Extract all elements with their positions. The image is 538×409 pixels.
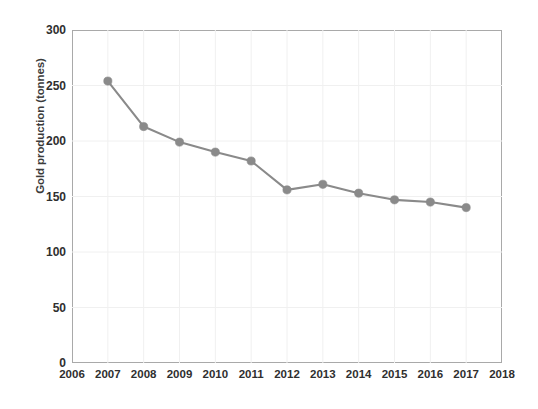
x-tick-label: 2014 xyxy=(346,368,372,380)
x-tick-label: 2006 xyxy=(59,368,85,380)
x-axis-tick-labels: 2006200720082009201020112012201320142015… xyxy=(0,368,538,394)
gridlines xyxy=(72,30,502,363)
x-tick-label: 2008 xyxy=(131,368,157,380)
data-point xyxy=(104,77,112,85)
y-axis-tick-labels: 050100150200250300 xyxy=(0,0,66,409)
data-point xyxy=(247,157,255,165)
data-point xyxy=(140,122,148,130)
data-point xyxy=(175,138,183,146)
data-point xyxy=(462,204,470,212)
x-tick-label: 2015 xyxy=(382,368,408,380)
x-tick-label: 2011 xyxy=(239,368,264,380)
y-tick-label: 200 xyxy=(4,134,66,148)
y-tick-label: 100 xyxy=(4,245,66,259)
x-tick-label: 2016 xyxy=(418,368,444,380)
gold-production-line-chart: Gold production (tonnes) 050100150200250… xyxy=(0,0,538,409)
plot-canvas xyxy=(72,30,502,363)
data-point xyxy=(355,189,363,197)
y-tick-label: 300 xyxy=(4,23,66,37)
x-tick-label: 2012 xyxy=(274,368,300,380)
x-tick-label: 2007 xyxy=(95,368,121,380)
data-point xyxy=(426,198,434,206)
y-tick-label: 250 xyxy=(4,79,66,93)
y-tick-label: 50 xyxy=(4,301,66,315)
x-tick-label: 2018 xyxy=(489,368,515,380)
data-point xyxy=(283,186,291,194)
y-tick-label: 150 xyxy=(4,190,66,204)
x-tick-label: 2010 xyxy=(203,368,229,380)
x-tick-label: 2009 xyxy=(167,368,193,380)
x-tick-label: 2013 xyxy=(310,368,336,380)
x-tick-label: 2017 xyxy=(453,368,479,380)
data-point xyxy=(319,180,327,188)
data-point xyxy=(390,196,398,204)
data-point xyxy=(211,148,219,156)
